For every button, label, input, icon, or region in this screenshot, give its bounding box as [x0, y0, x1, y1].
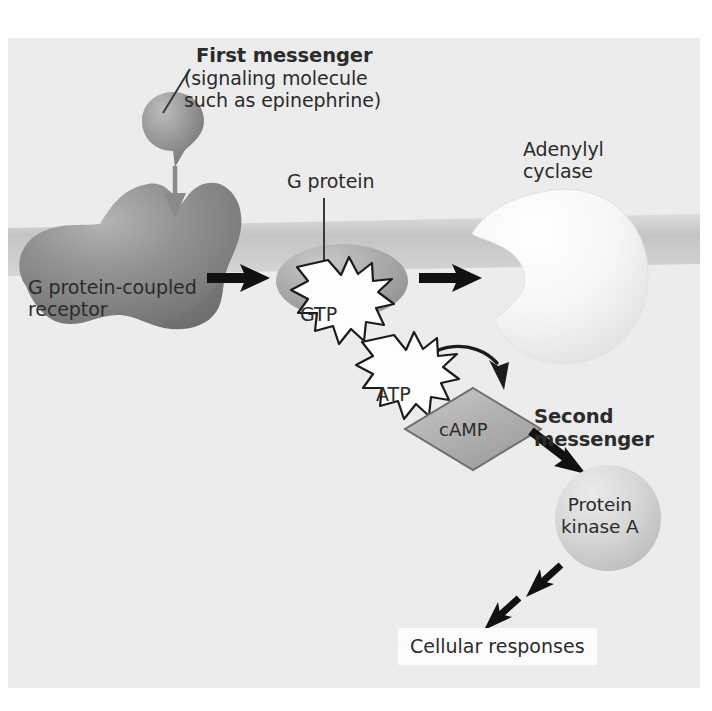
cellular-responses-label: Cellular responses: [398, 628, 597, 665]
adenylyl-cyclase-shape: [472, 189, 648, 364]
first-messenger-sublabel: (signaling molecule such as epinephrine): [184, 67, 381, 112]
camp-label: cAMP: [439, 419, 488, 440]
g-protein-coupled-receptor-label: G protein-coupled receptor: [28, 276, 197, 321]
protein-kinase-a-label: Protein kinase A: [561, 494, 639, 538]
figure-plate: First messenger (signaling molecule such…: [8, 38, 700, 688]
arrow-kinase-to-responses-upper: [526, 565, 561, 597]
first-messenger-label: First messenger: [196, 44, 373, 67]
figure-root: First messenger (signaling molecule such…: [0, 0, 712, 711]
g-protein-label: G protein: [287, 170, 374, 192]
gtp-label: GTP: [300, 303, 337, 325]
second-messenger-label: Second messenger: [534, 405, 654, 451]
adenylyl-cyclase-label: Adenylyl cyclase: [523, 138, 604, 183]
atp-label: ATP: [376, 383, 411, 405]
pathway-illustration: [8, 38, 700, 688]
arrow-kinase-to-responses-lower: [484, 598, 519, 630]
